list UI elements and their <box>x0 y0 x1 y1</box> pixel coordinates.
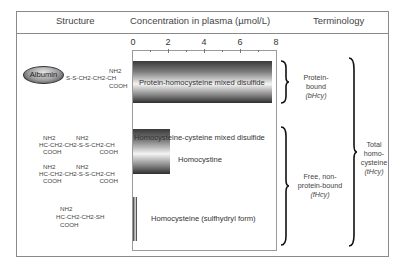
axis-tick-0: 0 <box>130 37 135 47</box>
minor-tick <box>258 50 259 52</box>
bar-label-sulfhydryl: Homocysteine (sulfhydryl form) <box>151 214 256 223</box>
header-terminology: Terminology <box>313 15 364 26</box>
header-concentration: Concentration in plasma (µmol/L) <box>130 15 270 26</box>
minor-tick <box>186 50 187 52</box>
chem-sulfhydryl-chain: HC-CH2-CH2-SH <box>56 213 104 220</box>
brace-free-icon <box>280 126 290 246</box>
term-protein-bound: Protein- bound (bHcy) <box>294 73 338 100</box>
axis-tick-4: 4 <box>201 37 206 47</box>
term-free-abbr: (fHcy) <box>310 190 329 199</box>
bar-label-protein-homocysteine: Protein-homocysteine mixed disulfide <box>139 78 265 87</box>
brace-protein-bound-icon <box>280 60 290 104</box>
term-free-line2: protein-bound <box>292 181 348 190</box>
minor-tick <box>150 50 151 52</box>
header-divider <box>16 33 389 34</box>
chem-homocystine-nh2: NH2 NH2 <box>43 163 88 170</box>
chem-protein-nh2: NH2 <box>109 67 121 74</box>
chem-hcycys-chain: HC-CH2-CH2-S-S-CH2-CH <box>39 141 115 148</box>
albumin-shape: Albumin <box>23 66 64 84</box>
albumin-label: Albumin <box>30 70 57 79</box>
axis-tick-2: 2 <box>165 37 170 47</box>
term-total-line2: homo- <box>358 149 390 158</box>
major-tick <box>204 49 205 53</box>
term-total-line1: Total <box>358 140 390 149</box>
term-protein-bound-abbr: (bHcy) <box>305 91 326 100</box>
term-free: Free, non- protein-bound (fHcy) <box>292 172 348 199</box>
axis-tick-6: 6 <box>237 37 242 47</box>
minor-tick <box>222 50 223 52</box>
term-free-line1: Free, non- <box>292 172 348 181</box>
major-tick <box>168 49 169 53</box>
axis-tick-8: 8 <box>273 37 278 47</box>
chem-protein-chain: S-S-CH2-CH2-CH <box>66 74 116 81</box>
chem-sulfhydryl-nh2: NH2 <box>60 205 72 212</box>
term-total-line3: cysteine <box>358 158 390 167</box>
chem-hcycys-nh2: NH2 NH2 <box>43 134 88 141</box>
chem-homocystine-cooh: COOH COOH <box>43 177 118 184</box>
term-protein-bound-line2: bound <box>294 82 338 91</box>
chem-homocystine-chain: HC-CH2-CH2-S-S-CH2-CH <box>39 170 115 177</box>
term-total: Total homo- cysteine (tHcy) <box>358 140 390 176</box>
chem-sulfhydryl-cooh: COOH <box>60 221 79 228</box>
bar-label-homocysteine-cysteine: Homocysteine-cysteine mixed disulfide <box>134 133 265 142</box>
term-protein-bound-line1: Protein- <box>294 73 338 82</box>
chem-protein-cooh: COOH <box>109 82 128 89</box>
major-tick <box>240 49 241 53</box>
bar-homocysteine-sulfhydryl <box>133 197 137 241</box>
bar-label-homocystine: Homocystine <box>178 155 222 164</box>
header-structure: Structure <box>56 15 95 26</box>
brace-total-icon <box>348 57 358 247</box>
term-total-abbr: (tHcy) <box>364 167 383 176</box>
chem-hcycys-cooh: COOH COOH <box>43 148 118 155</box>
